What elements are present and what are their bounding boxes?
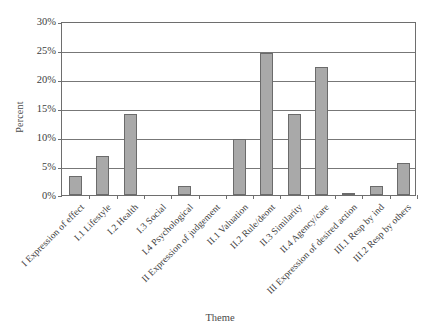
y-axis-tick-label: 30% (10, 17, 56, 28)
bar (69, 176, 82, 195)
bar (288, 114, 301, 195)
x-axis-tick-label: I.2 Health (106, 202, 141, 237)
x-axis-tick-mark (417, 195, 418, 199)
y-axis-tick-label: 0% (10, 191, 56, 202)
x-axis-tick-label: III.2 Resp by others (352, 202, 414, 264)
x-axis-tick-mark (89, 195, 90, 199)
x-axis-tick-label: II Expression of judgement (140, 202, 222, 284)
x-axis-tick-mark (390, 195, 391, 199)
y-axis-tick-label: 25% (10, 46, 56, 57)
bar (370, 186, 383, 195)
x-axis-tick-mark (308, 195, 309, 199)
x-axis-tick-mark (144, 195, 145, 199)
y-axis-tick-mark (58, 81, 62, 82)
x-axis-tick-label: III Expression of desired action (265, 202, 359, 296)
bar (315, 67, 328, 195)
x-axis-tick-label: I.4 Psychological (140, 202, 195, 257)
x-axis-tick-label: II.1 Valuation (205, 202, 250, 247)
bar (124, 114, 137, 195)
x-axis-tick-mark (226, 195, 227, 199)
bar (233, 139, 246, 195)
bar (178, 186, 191, 195)
x-axis-tick-label: II.3 Similarity (258, 202, 304, 248)
y-axis-tick-mark (58, 23, 62, 24)
bar (342, 193, 355, 195)
x-axis-tick-mark (171, 195, 172, 199)
x-axis-tick-label: III.1 Resp by ind (332, 202, 386, 256)
y-axis-tick-mark (58, 196, 62, 197)
bar-chart: Percent 0%5%10%15%20%25%30% I Expression… (0, 0, 440, 334)
y-axis-tick-mark (58, 168, 62, 169)
x-axis-tick-mark (280, 195, 281, 199)
x-axis-tick-mark (199, 195, 200, 199)
y-axis-tick-mark (58, 52, 62, 53)
y-axis-tick-label: 20% (10, 75, 56, 86)
plot-area (61, 22, 416, 196)
y-axis-tick-mark (58, 110, 62, 111)
x-axis-tick-label: II.2 Rule/deont (228, 202, 277, 251)
y-axis-tick-labels: 0%5%10%15%20%25%30% (0, 0, 56, 334)
x-axis-title: Theme (0, 312, 440, 323)
x-axis-tick-mark (362, 195, 363, 199)
gridline (62, 81, 415, 82)
bar (260, 53, 273, 195)
bar (96, 156, 109, 195)
x-axis-tick-label: II.4 Agency/care (279, 202, 332, 255)
y-axis-tick-mark (58, 139, 62, 140)
gridline (62, 52, 415, 53)
x-axis-tick-mark (335, 195, 336, 199)
x-axis-tick-label: I.1 Lifestyle (72, 202, 113, 243)
y-axis-tick-label: 10% (10, 133, 56, 144)
x-axis-tick-mark (253, 195, 254, 199)
bar (397, 163, 410, 195)
gridline (62, 110, 415, 111)
x-axis-tick-mark (117, 195, 118, 199)
y-axis-tick-label: 15% (10, 104, 56, 115)
y-axis-tick-label: 5% (10, 162, 56, 173)
x-axis-tick-label: I.3 Social (134, 202, 168, 236)
